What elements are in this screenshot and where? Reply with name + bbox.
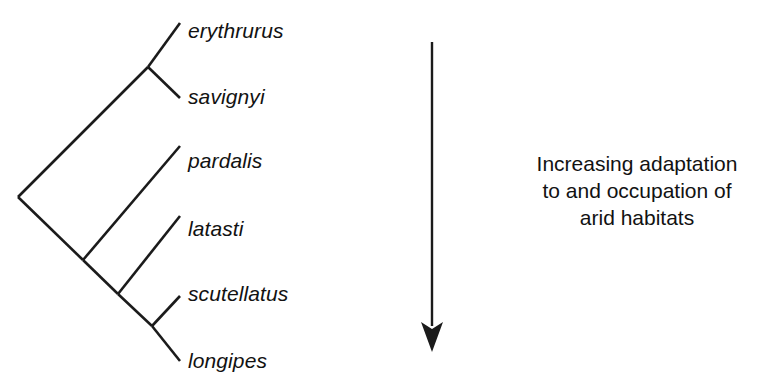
- down-arrow-icon: [400, 30, 470, 370]
- adaptation-gradient-caption: Increasing adaptation to and occupation …: [498, 150, 775, 231]
- taxon-label-erythrurus: erythrurus: [188, 20, 284, 41]
- branch-to-pardalis: [83, 146, 180, 260]
- branch-to-longipes: [152, 326, 180, 361]
- taxon-label-savignyi: savignyi: [188, 86, 265, 107]
- branch-to-latasti: [118, 216, 180, 294]
- caption-line-3: arid habitats: [498, 204, 775, 231]
- taxon-label-scutellatus: scutellatus: [188, 283, 288, 304]
- arrow-head: [421, 322, 443, 352]
- figure-canvas: erythrurus savignyi pardalis latasti scu…: [0, 0, 775, 387]
- taxon-label-longipes: longipes: [188, 350, 267, 371]
- branch-root-to-arid-clade: [18, 197, 83, 260]
- branch-to-erythrurus: [148, 23, 180, 67]
- caption-line-2: to and occupation of: [498, 177, 775, 204]
- branch-to-savignyi: [148, 67, 180, 98]
- branch-arid-to-latasti-group: [83, 260, 118, 294]
- branch-to-scutellatus: [152, 296, 180, 326]
- taxon-label-latasti: latasti: [188, 218, 244, 239]
- branch-latasti-group-to-terminal-pair: [118, 294, 152, 326]
- caption-line-1: Increasing adaptation: [498, 150, 775, 177]
- taxon-label-pardalis: pardalis: [188, 150, 262, 171]
- branch-root-to-upper-clade: [18, 67, 148, 197]
